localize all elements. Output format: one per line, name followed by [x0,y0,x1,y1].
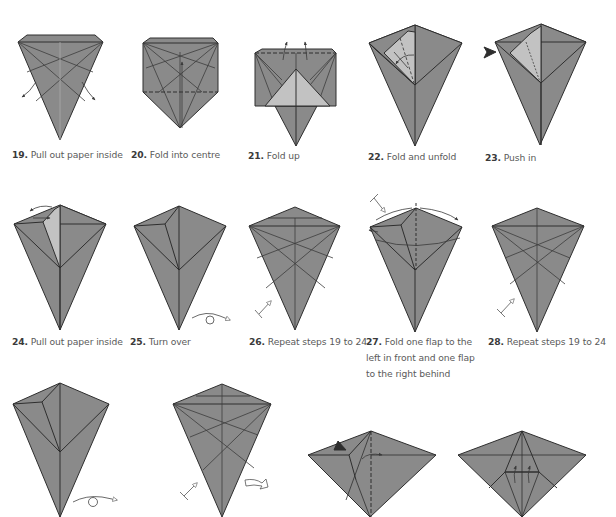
push-arrow-icon [484,47,496,58]
repeat-steps-icon [370,194,385,212]
rotate-icon [245,479,268,489]
caption-step-25: 25. Turn over [130,334,191,350]
diagram-step-28 [492,208,584,332]
diagram-canvas [0,0,616,517]
repeat-steps-icon [255,301,271,318]
diagram-step-32 [458,431,586,517]
diagram-step-22 [369,25,462,146]
diagram-step-24 [14,205,106,330]
diagram-step-21 [255,42,336,146]
repeat-steps-icon [180,483,197,500]
caption-step-19: 19. Pull out paper inside [12,147,123,163]
diagram-step-26 [249,207,340,330]
curved-arrow-icon [82,82,95,100]
caption-step-28: 28. Repeat steps 19 to 24 [488,334,606,350]
diagram-step-19 [18,35,103,140]
diagram-step-31 [308,431,436,517]
turn-over-icon [192,313,230,324]
turn-over-icon [73,497,117,507]
caption-step-20: 20. Fold into centre [131,147,220,163]
diagram-step-29 [13,383,117,517]
caption-step-24: 24. Pull out paper inside [12,334,123,350]
caption-step-26: 26. Repeat steps 19 to 24 [249,334,367,350]
caption-step-21: 21. Fold up [248,148,300,164]
diagram-step-20 [143,38,218,128]
diagram-step-23 [484,24,586,145]
caption-step-23: 23. Push in [485,150,536,166]
repeat-steps-icon [497,299,514,317]
caption-step-27: 27. Fold one flap to the left in front a… [366,334,475,382]
diagram-step-27 [369,194,462,332]
diagram-step-25 [134,206,230,330]
curved-arrow-icon [22,82,36,97]
diagram-step-30 [173,384,271,517]
caption-step-22: 22. Fold and unfold [368,149,456,165]
